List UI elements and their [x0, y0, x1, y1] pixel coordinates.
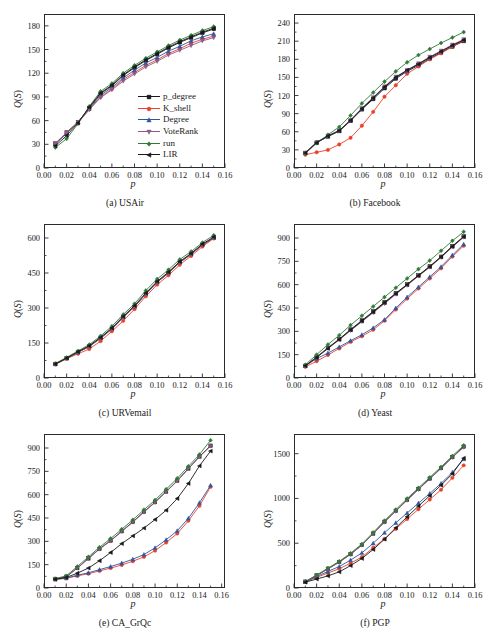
- y-tick-label: 90: [282, 110, 290, 119]
- x-tick-label: 0.12: [170, 591, 185, 600]
- x-axis-label-d: p: [381, 388, 386, 399]
- chart-panel-c: 01503004506000.000.020.040.060.080.100.1…: [0, 210, 250, 422]
- data-point-Degree: [360, 333, 364, 337]
- y-tick-label: 600: [27, 234, 40, 243]
- x-tick-label: 0.06: [105, 381, 120, 390]
- y-tick-label: 900: [27, 444, 40, 453]
- data-point-Degree: [349, 558, 353, 562]
- plot-canvas-b: 03060901201501802102400.000.020.040.060.…: [250, 0, 500, 212]
- data-point-run: [428, 47, 432, 51]
- y-tick-label: 120: [27, 69, 40, 78]
- x-tick-label: 0.02: [59, 591, 74, 600]
- x-tick-label: 0.12: [422, 171, 437, 180]
- data-point-Degree: [326, 351, 330, 355]
- y-tick-label: 150: [27, 339, 40, 348]
- data-point-K_shell: [439, 488, 442, 491]
- y-tick-label: 1000: [273, 494, 290, 503]
- legend-item-K_shell: K_shell: [138, 103, 198, 115]
- data-point-K_shell: [451, 476, 454, 479]
- x-tick-label: 0.16: [214, 591, 229, 600]
- x-axis-label-b: p: [381, 178, 386, 189]
- y-tick-label: 210: [277, 37, 290, 46]
- data-point-K_shell: [349, 136, 352, 139]
- x-tick-label: 0.04: [332, 591, 347, 600]
- data-point-K_shell: [338, 143, 341, 146]
- legend-label: run: [163, 139, 175, 148]
- panel-caption-d: (d) Yeast: [250, 407, 500, 418]
- y-tick-label: 600: [277, 281, 290, 290]
- x-tick-label: 0.10: [150, 381, 165, 390]
- legend-swatch-Degree: [138, 119, 160, 120]
- x-tick-label: 0.14: [192, 591, 207, 600]
- y-tick-label: 60: [32, 117, 40, 126]
- data-point-LIR: [86, 566, 90, 570]
- x-tick-label: 0.00: [287, 591, 302, 600]
- data-point-Degree: [142, 553, 146, 557]
- x-tick-label: 0.12: [172, 381, 187, 390]
- legend-swatch-VoteRank: [138, 131, 160, 132]
- data-point-VoteRank: [144, 65, 148, 69]
- x-tick-label: 0.02: [309, 171, 324, 180]
- data-point-run: [417, 53, 421, 57]
- x-tick-label: 0.02: [309, 381, 324, 390]
- legend-item-p_degree: p_degree: [138, 91, 198, 103]
- legend-swatch-K_shell: [138, 108, 160, 109]
- chart-panel-a: 03060901201501800.000.020.040.060.080.10…: [0, 0, 250, 212]
- y-axis-label-b: Q(S): [263, 90, 273, 108]
- chart-legend: p_degreeK_shellDegreeVoteRankrunLIR: [138, 91, 198, 161]
- legend-swatch-p_degree: [138, 96, 160, 97]
- y-tick-label: 300: [27, 304, 40, 313]
- x-tick-label: 0.16: [468, 591, 483, 600]
- x-tick-label: 0.16: [218, 171, 233, 180]
- y-axis-label-d: Q(S): [263, 300, 273, 318]
- legend-marker-triangle-down-icon: [145, 128, 154, 137]
- x-tick-label: 0.06: [105, 171, 120, 180]
- y-tick-label: 750: [27, 467, 40, 476]
- plot-canvas-a: 03060901201501800.000.020.040.060.080.10…: [0, 0, 250, 212]
- figure-root: 03060901201501800.000.020.040.060.080.10…: [0, 0, 500, 635]
- x-axis-label-f: p: [381, 598, 386, 609]
- y-tick-label: 1500: [273, 450, 290, 459]
- x-tick-label: 0.02: [309, 591, 324, 600]
- x-tick-label: 0.14: [445, 591, 460, 600]
- data-point-K_shell: [462, 464, 465, 467]
- panel-caption-f: (f) PGP: [250, 617, 500, 628]
- y-tick-label: 300: [27, 537, 40, 546]
- chart-panel-b: 03060901201501802102400.000.020.040.060.…: [250, 0, 500, 212]
- y-tick-label: 180: [277, 55, 290, 64]
- y-tick-label: 30: [32, 140, 40, 149]
- data-point-K_shell: [326, 148, 329, 151]
- x-axis-label-c: p: [131, 388, 136, 399]
- x-tick-label: 0.16: [468, 171, 483, 180]
- x-tick-label: 0.00: [287, 171, 302, 180]
- y-axis-label-c: Q(S): [13, 300, 23, 318]
- plot-canvas-e: 01503004506007509000.000.020.040.060.080…: [0, 420, 250, 632]
- data-point-VoteRank: [166, 53, 170, 57]
- x-tick-label: 0.12: [422, 381, 437, 390]
- chart-panel-d: 01503004506007509000.000.020.040.060.080…: [250, 210, 500, 422]
- data-point-run: [439, 41, 443, 45]
- legend-item-VoteRank: VoteRank: [138, 126, 198, 138]
- x-tick-label: 0.06: [355, 591, 370, 600]
- x-tick-label: 0.10: [400, 171, 415, 180]
- y-tick-label: 90: [32, 93, 40, 102]
- data-point-Degree: [209, 483, 213, 487]
- x-tick-label: 0.10: [150, 171, 165, 180]
- y-tick-label: 750: [277, 257, 290, 266]
- y-tick-label: 180: [27, 22, 40, 31]
- legend-swatch-LIR: [138, 154, 160, 155]
- x-tick-label: 0.04: [82, 171, 97, 180]
- x-axis-label-e: p: [131, 598, 136, 609]
- y-axis-label-f: Q(S): [263, 510, 273, 528]
- y-tick-label: 500: [277, 539, 290, 548]
- data-point-Degree: [349, 339, 353, 343]
- data-point-Degree: [212, 32, 216, 36]
- y-tick-label: 300: [277, 327, 290, 336]
- x-tick-label: 0.12: [422, 591, 437, 600]
- y-tick-label: 240: [277, 19, 290, 28]
- y-tick-label: 450: [27, 269, 40, 278]
- data-point-K_shell: [428, 498, 431, 501]
- x-tick-label: 0.14: [195, 381, 210, 390]
- legend-marker-triangle-up-icon: [145, 116, 154, 125]
- x-tick-label: 0.06: [355, 381, 370, 390]
